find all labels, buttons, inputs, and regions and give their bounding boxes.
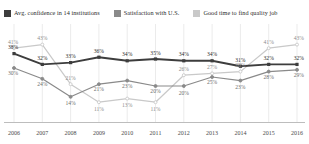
data-label: 27% — [207, 64, 218, 70]
data-label: 41% — [264, 39, 275, 45]
data-label: 13% — [122, 102, 133, 108]
data-label: 14% — [65, 100, 76, 106]
data-label: 34% — [179, 51, 190, 57]
data-label: 25% — [207, 79, 218, 85]
chart-plot-area: 38%32%33%36%34%35%34%34%31%32%32%30%24%1… — [0, 22, 309, 144]
data-label: 28% — [264, 74, 275, 80]
data-label: 43% — [37, 35, 48, 41]
legend-label-satisfaction: Satisfaction with U.S. — [124, 9, 180, 17]
data-label: 23% — [235, 84, 246, 90]
x-tick-label: 2006 — [8, 130, 20, 136]
legend-swatch-goodjob — [193, 10, 200, 17]
legend-item-goodjob: Good time to find quality job — [193, 6, 277, 20]
data-label: 41% — [8, 39, 19, 45]
data-label: 32% — [37, 55, 48, 61]
data-label: 11% — [94, 106, 104, 112]
x-tick-label: 2007 — [36, 130, 48, 136]
data-label: 20% — [179, 90, 190, 96]
data-label: 35% — [150, 50, 161, 56]
legend-swatch-satisfaction — [114, 10, 121, 17]
data-label: 20% — [150, 88, 161, 94]
data-label: 34% — [122, 51, 133, 57]
data-label: 23% — [122, 83, 133, 89]
data-label: 21% — [65, 75, 76, 81]
data-label: 32% — [264, 55, 275, 61]
data-label: 21% — [94, 86, 105, 92]
x-tick-label: 2011 — [150, 130, 162, 136]
legend-swatch-confidence — [4, 10, 11, 17]
data-label: 26% — [179, 66, 190, 72]
x-tick-label: 2008 — [65, 130, 77, 136]
legend-item-confidence: Avg. confidence in 14 institutions — [4, 6, 100, 20]
data-label: 36% — [94, 48, 105, 54]
x-tick-label: 2016 — [291, 130, 303, 136]
legend-label-goodjob: Good time to find quality job — [203, 9, 277, 17]
x-tick-label: 2010 — [121, 130, 133, 136]
data-label: 30% — [8, 70, 19, 76]
data-label: 34% — [207, 51, 218, 57]
data-label: 43% — [294, 35, 305, 41]
x-axis-tick-labels: 2006200720082009201020112012201320142015… — [8, 130, 303, 136]
chart-figure: Avg. confidence in 14 institutions Satis… — [0, 0, 309, 144]
data-label: 29% — [294, 72, 305, 78]
chart-svg: 38%32%33%36%34%35%34%34%31%32%32%30%24%1… — [0, 22, 309, 144]
x-tick-label: 2012 — [178, 130, 190, 136]
x-tick-label: 2015 — [263, 130, 275, 136]
data-label: 24% — [37, 81, 48, 87]
x-tick-label: 2009 — [93, 130, 105, 136]
chart-legend: Avg. confidence in 14 institutions Satis… — [0, 6, 309, 20]
chart-data-labels: 38%32%33%36%34%35%34%34%31%32%32%30%24%1… — [8, 35, 304, 112]
data-label: 28% — [235, 62, 246, 68]
data-label: 32% — [294, 55, 305, 61]
data-label: 11% — [150, 106, 160, 112]
data-label: 33% — [65, 53, 76, 59]
data-label: 38% — [8, 44, 19, 50]
legend-item-satisfaction: Satisfaction with U.S. — [114, 6, 180, 20]
x-tick-label: 2013 — [206, 130, 218, 136]
x-tick-label: 2014 — [234, 130, 246, 136]
legend-label-confidence: Avg. confidence in 14 institutions — [14, 9, 100, 17]
